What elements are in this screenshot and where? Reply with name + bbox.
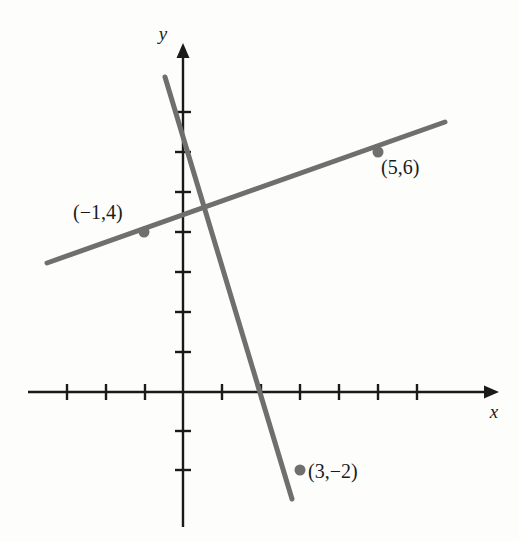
x-axis-label: x (489, 401, 499, 422)
label-5-6: (5,6) (381, 156, 419, 179)
figure-background (0, 0, 519, 541)
y-axis-label: y (157, 23, 168, 44)
label-3-neg2: (3,−2) (308, 460, 358, 483)
coordinate-plane-graph: y x (−1,4) (5,6) (3,−2) (0, 0, 519, 541)
label-neg1-4: (−1,4) (73, 201, 123, 224)
point-3-neg2 (295, 465, 306, 476)
point-neg1-4 (139, 227, 150, 238)
graph-figure: y x (−1,4) (5,6) (3,−2) (0, 0, 519, 541)
